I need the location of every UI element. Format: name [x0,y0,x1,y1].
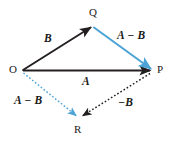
point-label-o: O [9,64,17,75]
vector-diagram-canvas [0,0,171,143]
point-label-r: R [74,124,81,135]
vector-b-line [23,28,91,71]
vector-label-b: B [44,33,52,45]
vector-label-a-minus-b-lower: A − B [14,95,42,107]
vector-minus-b-line [83,74,150,116]
vector-label-a-minus-b-upper: A − B [117,30,145,42]
vector-label-a: A [82,76,90,88]
vector-diagram-figure: O Q P R B A A − B A − B −B [0,0,171,143]
point-label-q: Q [89,7,97,18]
vector-label-minus-b: −B [118,97,133,109]
point-label-p: P [157,64,163,75]
